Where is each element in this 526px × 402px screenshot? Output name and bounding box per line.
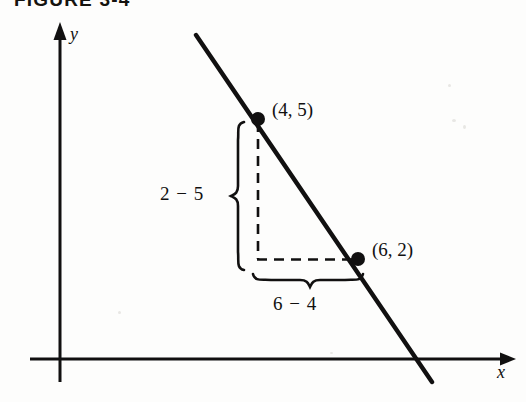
scan-speck	[118, 311, 121, 314]
sloped-line	[196, 35, 432, 382]
point-marker-upper	[251, 112, 265, 126]
vertical-brace	[231, 122, 244, 270]
rise-brace-label: 2 − 5	[160, 183, 204, 205]
scan-speck	[330, 352, 333, 354]
point-label-upper: (4, 5)	[272, 99, 313, 121]
y-axis-label: y	[70, 24, 78, 45]
scan-speck	[452, 119, 456, 122]
run-brace-label: 6 − 4	[273, 293, 317, 315]
figure-graphic	[0, 0, 526, 402]
x-axis	[30, 353, 516, 366]
x-axis-label: x	[497, 362, 505, 383]
figure-container: FIGURE 3-4 (4, 5) (6, 2) 2 − 5 6 − 4 x	[0, 0, 526, 402]
point-marker-lower	[351, 252, 365, 266]
scan-speck	[463, 125, 466, 129]
y-axis	[54, 22, 67, 382]
scan-speck	[448, 84, 451, 87]
point-label-lower: (6, 2)	[372, 239, 413, 261]
horizontal-brace	[253, 274, 363, 287]
